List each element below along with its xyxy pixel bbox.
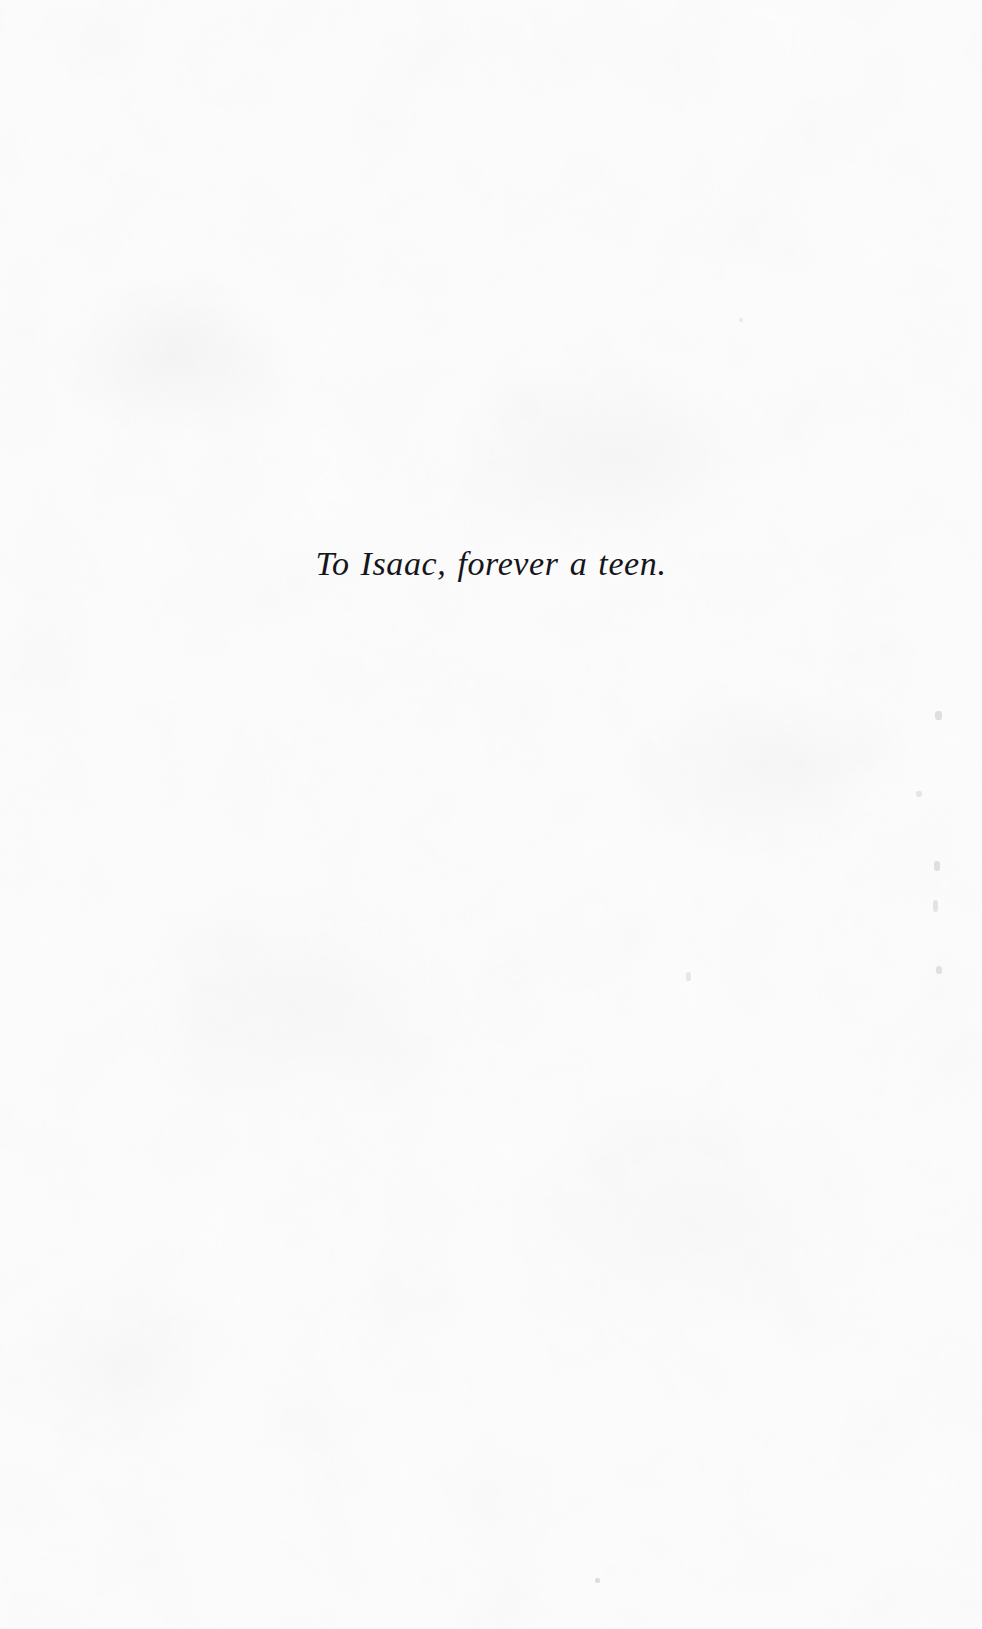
dedication-block: To Isaac, forever a teen. [0, 0, 982, 1629]
dedication-page: To Isaac, forever a teen. [0, 0, 982, 1629]
dedication-text: To Isaac, forever a teen. [0, 544, 982, 583]
